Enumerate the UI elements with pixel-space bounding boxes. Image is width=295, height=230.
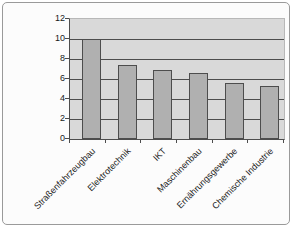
x-axis-tick (69, 139, 70, 143)
x-axis-tick (140, 139, 141, 143)
x-axis: StraßenfahrzeugbauElektrotechnikIKTMasch… (3, 3, 289, 224)
x-axis-tick (283, 139, 284, 143)
x-axis-label-IKT: IKT (151, 146, 168, 163)
x-axis-tick (212, 139, 213, 143)
x-axis-label-Chemische Industrie: Chemische Industrie (210, 146, 275, 211)
x-axis-label-Ernährungsgewerbe: Ernährungsgewerbe (175, 146, 239, 210)
chart-frame: 024681012 StraßenfahrzeugbauElektrotechn… (2, 2, 290, 225)
x-axis-tick (247, 139, 248, 143)
chart-canvas: 024681012 StraßenfahrzeugbauElektrotechn… (3, 3, 289, 224)
x-axis-tick (105, 139, 106, 143)
x-axis-label-Straßenfahrzeugbau: Straßenfahrzeugbau (32, 146, 97, 211)
x-axis-tick (176, 139, 177, 143)
